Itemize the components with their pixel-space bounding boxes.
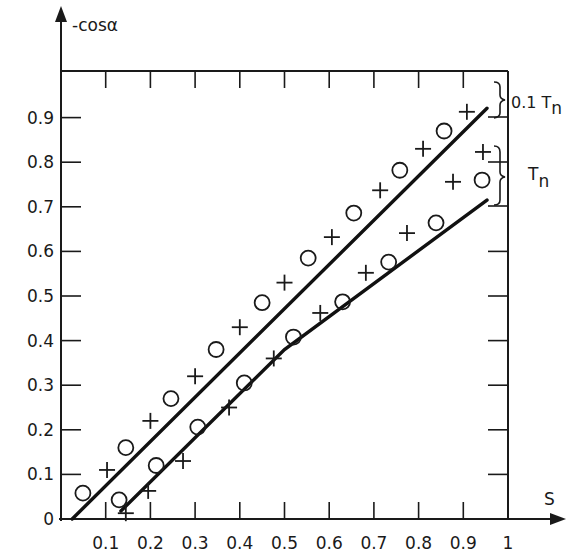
x-tick-label: 0.8 — [405, 533, 432, 553]
brace-0.1Tn: 0.1 Tn — [488, 82, 562, 118]
brace-bottom-label: Tn — [527, 164, 549, 191]
circle-marker — [209, 342, 224, 357]
cross-marker — [475, 144, 491, 160]
y-tick-label: 0.2 — [27, 420, 54, 440]
fit-line — [72, 108, 487, 519]
circle-marker — [381, 255, 396, 270]
cross-marker — [445, 174, 461, 190]
cross-marker — [99, 462, 115, 478]
fit-line — [121, 200, 487, 511]
circle-marker — [475, 173, 490, 188]
brace-icon — [494, 82, 505, 118]
y-tick-label: 0.6 — [27, 241, 54, 261]
brace-top-label: 0.1 Tn — [511, 93, 562, 118]
cross-marker — [358, 265, 374, 281]
x-tick-label: 0.1 — [92, 533, 119, 553]
tick-labels: 0.10.20.30.40.50.60.70.80.9100.10.20.30.… — [27, 108, 513, 553]
x-tick-label: 0.4 — [226, 533, 253, 553]
x-tick-label: 0.3 — [182, 533, 209, 553]
y-tick-label: 0.5 — [27, 286, 54, 306]
circle-marker — [190, 420, 205, 435]
chart: 0.10.20.30.40.50.60.70.80.9100.10.20.30.… — [0, 0, 577, 559]
x-tick-label: 0.5 — [271, 533, 298, 553]
y-tick-label: 0 — [43, 509, 54, 529]
cross-marker — [232, 319, 248, 335]
y-tick-label: 0.7 — [27, 197, 54, 217]
x-tick-label: 1 — [503, 533, 514, 553]
cross-marker — [459, 104, 475, 120]
cross-marker — [399, 225, 415, 241]
circle-marker — [255, 295, 270, 310]
circle-marker — [392, 163, 407, 178]
cross-marker — [221, 400, 237, 416]
circle-marker — [437, 123, 452, 138]
cross-marker — [140, 483, 156, 499]
cross-marker — [277, 275, 293, 291]
y-tick-label: 0.4 — [27, 331, 54, 351]
circle-marker — [163, 391, 178, 406]
x-axis-label: S — [544, 489, 555, 509]
cross-marker — [415, 141, 431, 157]
x-tick-label: 0.7 — [360, 533, 387, 553]
cross-marker — [142, 413, 158, 429]
y-tick-label: 0.8 — [27, 152, 54, 172]
y-tick-label: 0.1 — [27, 464, 54, 484]
y-axis-arrow-icon — [55, 6, 67, 22]
y-tick-label: 0.3 — [27, 375, 54, 395]
fit-lines — [72, 108, 487, 519]
x-tick-label: 0.6 — [316, 533, 343, 553]
circle-marker — [429, 215, 444, 230]
cross-marker — [372, 182, 388, 198]
cross-marker — [187, 368, 203, 384]
circle-marker — [346, 206, 361, 221]
circle-marker — [112, 492, 127, 507]
x-tick-label: 0.2 — [137, 533, 164, 553]
y-axis-label: -cosα — [72, 15, 118, 35]
circle-marker — [118, 440, 133, 455]
brace-Tn: Tn — [488, 146, 549, 206]
y-tick-label: 0.9 — [27, 108, 54, 128]
circle-marker — [301, 251, 316, 266]
cross-marker — [324, 229, 340, 245]
x-tick-label: 0.9 — [450, 533, 477, 553]
x-axis-arrow-icon — [550, 513, 566, 525]
circle-marker — [75, 486, 90, 501]
brace-icon — [494, 146, 505, 205]
circle-marker — [149, 458, 164, 473]
